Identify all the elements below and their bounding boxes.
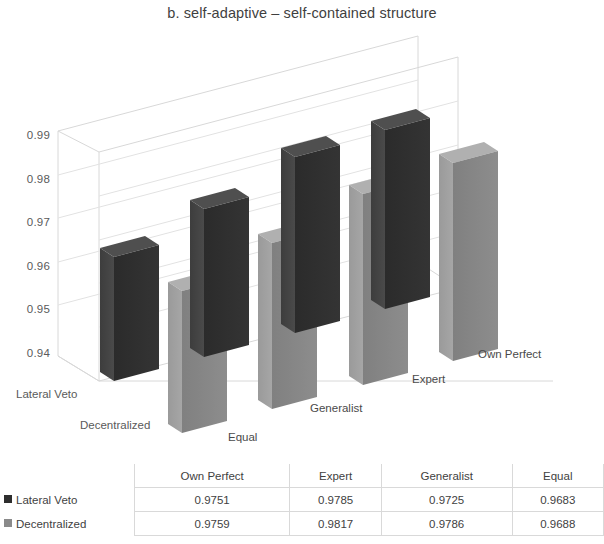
category-axis-label-equal: Equal (228, 431, 257, 443)
cell-decentralized-generalist: 0.9786 (381, 512, 512, 536)
y-axis-tick-2: 0.97 (4, 216, 50, 228)
table-row: Lateral Veto 0.9751 0.9785 0.9725 0.9683 (0, 488, 604, 512)
cell-decentralized-own-perfect: 0.9759 (135, 512, 290, 536)
table-row: Decentralized 0.9759 0.9817 0.9786 0.968… (0, 512, 604, 536)
y-axis-tick-3: 0.96 (4, 260, 50, 272)
category-axis-label-own-perfect: Own Perfect (478, 348, 541, 360)
legend-label-decentralized: Decentralized (16, 518, 86, 530)
category-axis-label-expert: Expert (412, 373, 445, 385)
cell-decentralized-equal: 0.9688 (512, 512, 603, 536)
bar-lateral-veto-own-perfect (371, 109, 430, 309)
depth-axis-label-lateral-veto: Lateral Veto (16, 388, 77, 400)
data-table-header-generalist: Generalist (381, 464, 512, 488)
legend-item-decentralized: Decentralized (0, 512, 135, 536)
data-table-header-expert: Expert (290, 464, 381, 488)
data-table-header-own-perfect: Own Perfect (135, 464, 290, 488)
legend-label-lateral-veto: Lateral Veto (16, 494, 77, 506)
data-table-header-row: Own Perfect Expert Generalist Equal (0, 464, 604, 488)
cell-lateral-veto-own-perfect: 0.9751 (135, 488, 290, 512)
category-axis-label-generalist: Generalist (310, 402, 362, 414)
bar-decentralized-own-perfect (439, 142, 498, 361)
y-axis-tick-1: 0.98 (4, 173, 50, 185)
y-axis-tick-0: 0.99 (4, 129, 50, 141)
legend-item-lateral-veto: Lateral Veto (0, 488, 135, 512)
data-table-header-equal: Equal (512, 464, 603, 488)
cell-decentralized-expert: 0.9817 (290, 512, 381, 536)
chart-root: b. self-adaptive – self-contained struct… (0, 0, 604, 544)
data-table: Own Perfect Expert Generalist Equal Late… (0, 464, 604, 536)
cell-lateral-veto-equal: 0.9683 (512, 488, 603, 512)
depth-axis-label-decentralized: Decentralized (80, 419, 150, 431)
plot-area (0, 0, 604, 460)
bar-lateral-veto-generalist (190, 188, 249, 357)
y-axis-tick-5: 0.94 (4, 347, 50, 359)
legend-swatch-decentralized (4, 519, 12, 527)
y-axis-tick-4: 0.95 (4, 303, 50, 315)
cell-lateral-veto-generalist: 0.9725 (381, 488, 512, 512)
bar-lateral-veto-expert (281, 136, 340, 333)
cell-lateral-veto-expert: 0.9785 (290, 488, 381, 512)
bar-lateral-veto-equal (100, 236, 159, 381)
data-table-corner-cell (0, 464, 135, 488)
legend-swatch-lateral-veto (4, 495, 12, 503)
